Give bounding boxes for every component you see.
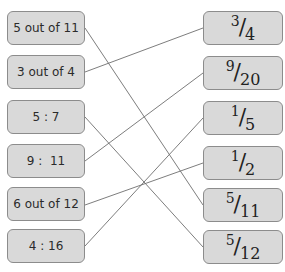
left-box-3[interactable]: 5 : 7 bbox=[7, 100, 85, 134]
denominator: 20 bbox=[240, 70, 260, 89]
left-box-1[interactable]: 5 out of 11 bbox=[7, 11, 85, 45]
right-box-3[interactable]: 1/5 bbox=[203, 101, 283, 135]
left-label: 6 out of 12 bbox=[13, 197, 79, 211]
fraction: 5/12 bbox=[226, 233, 261, 262]
left-label: 3 out of 4 bbox=[17, 65, 75, 79]
right-box-1[interactable]: 3/4 bbox=[203, 11, 283, 45]
fraction: 3/4 bbox=[231, 14, 256, 43]
left-box-5[interactable]: 6 out of 12 bbox=[7, 187, 85, 221]
fraction: 1/2 bbox=[231, 149, 256, 178]
fraction: 1/5 bbox=[231, 104, 256, 133]
right-box-6[interactable]: 5/12 bbox=[203, 230, 283, 264]
fraction: 9/20 bbox=[226, 59, 261, 88]
line-9-11-to-9-20 bbox=[85, 73, 203, 161]
right-box-2[interactable]: 9/20 bbox=[203, 56, 283, 90]
line-4-16-to-1-5 bbox=[85, 118, 203, 246]
denominator: 5 bbox=[245, 115, 255, 134]
left-box-6[interactable]: 4 : 16 bbox=[7, 229, 85, 263]
left-label: 4 : 16 bbox=[29, 239, 64, 253]
left-box-2[interactable]: 3 out of 4 bbox=[7, 55, 85, 89]
denominator: 4 bbox=[245, 25, 255, 44]
denominator: 12 bbox=[240, 244, 260, 263]
denominator: 2 bbox=[245, 160, 255, 179]
left-label: 5 : 7 bbox=[33, 110, 60, 124]
right-box-4[interactable]: 1/2 bbox=[203, 146, 283, 180]
left-label: 5 out of 11 bbox=[13, 21, 79, 35]
denominator: 11 bbox=[240, 202, 260, 221]
left-box-4[interactable]: 9 : 11 bbox=[7, 144, 85, 178]
left-label: 9 : 11 bbox=[27, 154, 65, 168]
right-box-5[interactable]: 5/11 bbox=[203, 188, 283, 222]
line-6-out-of-12-to-1-2 bbox=[85, 163, 203, 205]
line-3-out-of-4-to-3-4 bbox=[85, 28, 203, 72]
fraction: 5/11 bbox=[226, 191, 261, 220]
